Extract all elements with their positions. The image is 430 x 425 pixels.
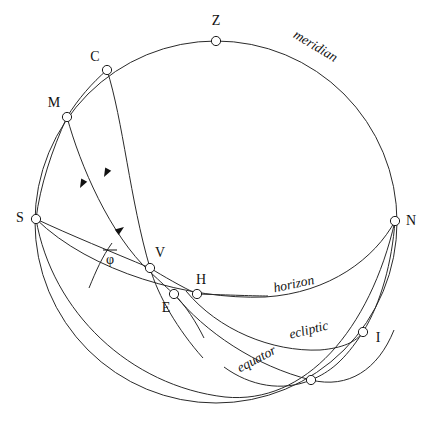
node-c[interactable]: [102, 65, 111, 74]
arc-c-to-m: [67, 70, 107, 117]
node-m[interactable]: [62, 112, 71, 121]
declination-arc-m: [67, 117, 174, 294]
label-m: M: [48, 95, 61, 110]
node-i[interactable]: [358, 327, 367, 336]
node-unlabeled-equator[interactable]: [306, 375, 315, 384]
arrow-on-m-arc: [77, 178, 87, 189]
arrow-angle-ray: [115, 224, 126, 235]
hour-circle-through-n: [311, 221, 395, 380]
celestial-sphere-figure: Z C M S N V E H I meridian horizon eclip…: [0, 0, 430, 425]
label-s: S: [16, 210, 24, 225]
label-horizon: horizon: [272, 272, 316, 295]
label-z: Z: [212, 13, 221, 28]
label-ecliptic: ecliptic: [288, 318, 330, 342]
phi-symbol: φ: [106, 252, 114, 267]
sphere-canvas: Z C M S N V E H I meridian horizon eclip…: [0, 0, 430, 425]
equator-front-arc: [174, 294, 394, 382]
latitude-angle-label: φ: [103, 250, 117, 267]
declination-arc-m-tail: [174, 294, 204, 338]
label-v: V: [155, 245, 165, 260]
node-z[interactable]: [211, 36, 220, 45]
label-equator: equator: [234, 342, 279, 375]
arrow-on-c-arc: [101, 167, 111, 178]
node-n[interactable]: [390, 216, 399, 225]
declination-arc-c: [107, 70, 203, 358]
left-limb-arc-upper: [36, 117, 67, 219]
meridian-circle: [35, 41, 397, 403]
label-e: E: [162, 300, 171, 315]
node-h[interactable]: [192, 289, 201, 298]
latitude-angle-ray: [36, 219, 150, 268]
arc-h-right: [197, 294, 268, 296]
label-i: I: [376, 330, 381, 345]
node-s[interactable]: [31, 214, 40, 223]
ecliptic-front-arc: [186, 291, 363, 350]
node-e[interactable]: [169, 289, 178, 298]
horizon-back-arc: [36, 219, 395, 398]
label-h: H: [196, 272, 206, 287]
label-n: N: [406, 213, 416, 228]
label-c: C: [90, 49, 99, 64]
node-v[interactable]: [145, 263, 154, 272]
label-meridian: meridian: [291, 27, 341, 65]
